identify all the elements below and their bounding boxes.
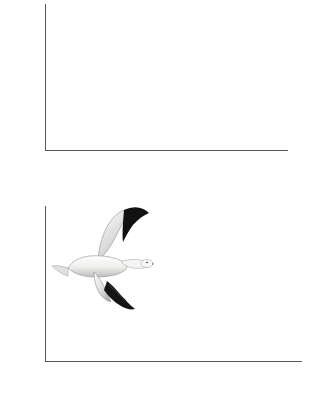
plot-area-top xyxy=(45,4,288,151)
plot-area-bottom xyxy=(45,206,302,362)
figure-snow-goose-hatch-date xyxy=(0,0,320,406)
line-series-brood-size xyxy=(46,4,320,154)
panel-brood-size-vs-hatch-date xyxy=(0,0,320,192)
snow-goose-in-flight-photo xyxy=(46,206,154,314)
panel-frequency-vs-hatch-date xyxy=(0,192,320,406)
